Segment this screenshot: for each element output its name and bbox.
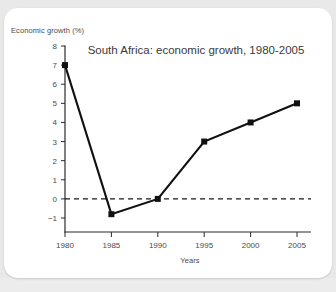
- x-tick-label: 2005: [288, 241, 306, 250]
- y-tick-label: 8: [53, 42, 58, 51]
- data-point-marker: [201, 139, 207, 145]
- data-point-marker: [108, 211, 114, 217]
- x-tick-label: 1990: [149, 241, 167, 250]
- x-axis-ticks: 198019851990199520002005: [56, 232, 306, 250]
- y-tick-label: 2: [53, 157, 58, 166]
- x-tick-label: 1980: [56, 241, 74, 250]
- y-tick-label: 3: [53, 138, 58, 147]
- x-tick-label: 1995: [195, 241, 213, 250]
- chart-title: South Africa: economic growth, 1980-2005: [88, 44, 305, 56]
- data-point-marker: [155, 196, 161, 202]
- series-line-economic-growth: [65, 65, 297, 214]
- y-tick-label: 1: [53, 176, 58, 185]
- y-axis-ticks: 876543210−1: [48, 42, 65, 223]
- x-tick-label: 1985: [103, 241, 121, 250]
- data-point-marker: [294, 100, 300, 106]
- x-tick-label: 2000: [242, 241, 260, 250]
- figure-page: Economic growth (%) South Africa: econom…: [0, 0, 336, 292]
- y-tick-label: 5: [53, 99, 58, 108]
- y-tick-label: 7: [53, 61, 58, 70]
- x-axis-caption: Years: [0, 256, 336, 265]
- y-tick-label: 6: [53, 80, 58, 89]
- series-markers: [62, 62, 300, 217]
- data-point-marker: [248, 119, 254, 125]
- data-point-marker: [62, 62, 68, 68]
- y-tick-label: 0: [53, 195, 58, 204]
- economic-growth-line-chart: South Africa: economic growth, 1980-2005…: [0, 0, 336, 292]
- y-tick-label: −1: [48, 214, 58, 223]
- y-tick-label: 4: [53, 118, 58, 127]
